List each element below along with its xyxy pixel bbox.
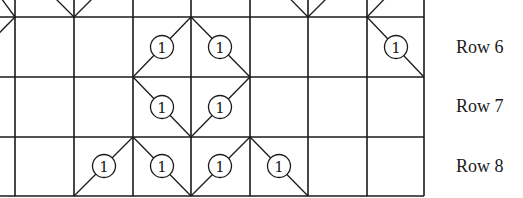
svg-text:1: 1 <box>157 158 167 176</box>
strand-diagonal <box>15 0 74 17</box>
svg-text:1: 1 <box>215 158 225 176</box>
strand-diagonal <box>74 0 133 17</box>
knot-node: 1 <box>209 155 232 178</box>
row-label-8: Row 8 <box>456 157 504 175</box>
stitch-diagram: 11111111111111 <box>0 0 523 198</box>
svg-text:1: 1 <box>391 39 401 57</box>
knot-node: 1 <box>151 155 174 178</box>
knot-node: 1 <box>209 36 232 59</box>
knot-node: 1 <box>93 155 116 178</box>
strand-diagonal <box>250 0 308 17</box>
knot-node: 1 <box>151 36 174 59</box>
strand-diagonal <box>0 17 15 77</box>
knot-nodes: 11111111111111 <box>34 0 408 178</box>
knot-node: 1 <box>151 96 174 119</box>
row-label-6: Row 6 <box>456 38 504 56</box>
svg-text:1: 1 <box>157 99 167 117</box>
svg-text:1: 1 <box>215 39 225 57</box>
knot-node: 1 <box>209 96 232 119</box>
knot-node: 1 <box>268 155 291 178</box>
row-label-7: Row 7 <box>456 97 504 115</box>
svg-text:1: 1 <box>99 158 109 176</box>
knot-node: 1 <box>385 36 408 59</box>
svg-text:1: 1 <box>274 158 284 176</box>
svg-text:1: 1 <box>215 99 225 117</box>
svg-text:1: 1 <box>157 39 167 57</box>
strand-diagonal <box>0 0 15 17</box>
strand-diagonal <box>308 0 367 17</box>
strand-diagonal <box>367 0 424 17</box>
